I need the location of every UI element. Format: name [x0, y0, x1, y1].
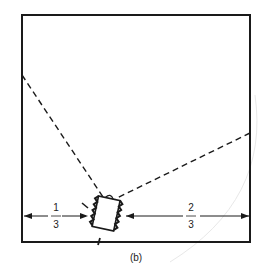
left-denominator: 3: [53, 219, 59, 230]
left-sight-line: [22, 75, 103, 197]
right-numerator: 2: [188, 202, 194, 213]
tick-mark: [98, 238, 100, 245]
speaker-placement-diagram: 1 3 2 3 (b): [0, 0, 268, 270]
arrow-right-icon: [241, 213, 249, 219]
arrow-left-icon: [24, 213, 32, 219]
faint-arc: [170, 95, 257, 262]
right-fraction-label: 2 3: [186, 202, 196, 230]
speaker-icon: [89, 193, 123, 232]
right-denominator: 3: [188, 219, 194, 230]
figure-caption: (b): [130, 252, 142, 263]
left-numerator: 1: [53, 202, 59, 213]
tick-mark: [82, 203, 88, 208]
right-sight-line: [115, 133, 250, 199]
left-fraction-label: 1 3: [51, 202, 61, 230]
arrow-right-icon: [80, 213, 88, 219]
arrow-left-icon: [126, 213, 134, 219]
